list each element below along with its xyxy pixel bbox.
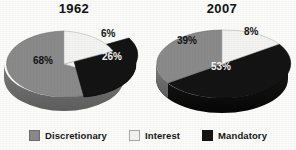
- pie-1962-label-mandatory: 26%: [102, 51, 122, 62]
- legend-item-interest: Interest: [129, 130, 180, 141]
- chart-legend: Discretionary Interest Mandatory: [0, 120, 296, 150]
- chart-panel-1962: 1962: [0, 0, 148, 118]
- legend-swatch-discretionary-icon: [29, 130, 40, 141]
- legend-item-discretionary: Discretionary: [29, 130, 107, 141]
- pie-chart-figure: 1962: [0, 0, 296, 150]
- pie-2007-label-discretionary: 39%: [177, 35, 197, 46]
- chart-panel-2007: 2007: [148, 0, 296, 118]
- legend-swatch-interest-icon: [129, 130, 140, 141]
- pie-1962: 68% 6% 26%: [0, 18, 148, 118]
- pie-2007: 39% 8% 53%: [148, 18, 296, 118]
- pie-2007-label-interest: 8%: [244, 26, 258, 37]
- chart-title-1962: 1962: [0, 1, 148, 16]
- chart-title-2007: 2007: [148, 1, 296, 16]
- pie-1962-label-interest: 6%: [101, 28, 115, 39]
- pie-2007-label-mandatory: 53%: [211, 61, 231, 72]
- legend-label-interest: Interest: [145, 130, 180, 141]
- pie-1962-svg: [0, 18, 148, 118]
- pie-1962-label-discretionary: 68%: [33, 55, 53, 66]
- legend-label-discretionary: Discretionary: [45, 130, 107, 141]
- legend-swatch-mandatory-icon: [202, 130, 213, 141]
- legend-label-mandatory: Mandatory: [218, 130, 267, 141]
- legend-item-mandatory: Mandatory: [202, 130, 267, 141]
